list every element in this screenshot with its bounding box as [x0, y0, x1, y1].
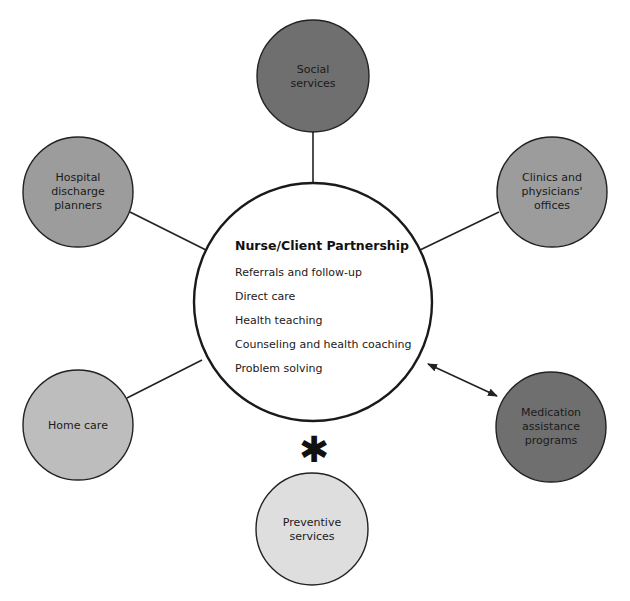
nurse-client-partnership-diagram: Nurse/Client Partnership Referrals and f… — [0, 0, 630, 601]
connector-clinics-physicians-offices — [420, 212, 499, 250]
center-item-referrals: Referrals and follow-up — [235, 266, 362, 279]
node-circle-social-services — [257, 20, 369, 132]
node-label-line: Medication — [521, 406, 581, 419]
double-arrow-medication-assistance-programs — [428, 364, 497, 396]
node-label-line: offices — [534, 199, 570, 212]
node-home-care: Home care — [23, 370, 133, 480]
node-label-line: physicians' — [522, 185, 583, 198]
node-label-line: Preventive — [283, 516, 342, 529]
connector-hospital-discharge-planners — [130, 212, 206, 250]
node-clinics-physicians-offices: Clinics and physicians' offices — [497, 137, 607, 247]
node-label-line: programs — [525, 434, 578, 447]
node-hospital-discharge-planners: Hospital discharge planners — [23, 137, 133, 247]
node-label-line: services — [290, 77, 335, 90]
node-circle-preventive-services — [256, 473, 368, 585]
center-title: Nurse/Client Partnership — [235, 238, 409, 253]
node-preventive-services: Preventive services — [256, 473, 368, 585]
node-label-line: discharge — [51, 185, 105, 198]
center-circle — [194, 183, 432, 421]
node-label-line: assistance — [522, 420, 580, 433]
connector-home-care — [127, 360, 202, 398]
center-item-problem-solving: Problem solving — [235, 362, 323, 375]
node-label-line: Clinics and — [522, 171, 582, 184]
center-node-nurse-client-partnership: Nurse/Client Partnership Referrals and f… — [194, 183, 432, 421]
center-item-health-teaching: Health teaching — [235, 314, 322, 327]
node-social-services: Social services — [257, 20, 369, 132]
center-item-counseling: Counseling and health coaching — [235, 338, 411, 351]
node-label-line: Social — [297, 63, 330, 76]
node-label-line: planners — [54, 199, 102, 212]
center-item-direct-care: Direct care — [235, 290, 296, 303]
asterisk-icon: ✱ — [299, 429, 329, 470]
node-label-line: Hospital — [56, 171, 101, 184]
node-label-line: services — [289, 530, 334, 543]
node-label-line: Home care — [48, 419, 108, 432]
node-medication-assistance-programs: Medication assistance programs — [496, 372, 606, 482]
